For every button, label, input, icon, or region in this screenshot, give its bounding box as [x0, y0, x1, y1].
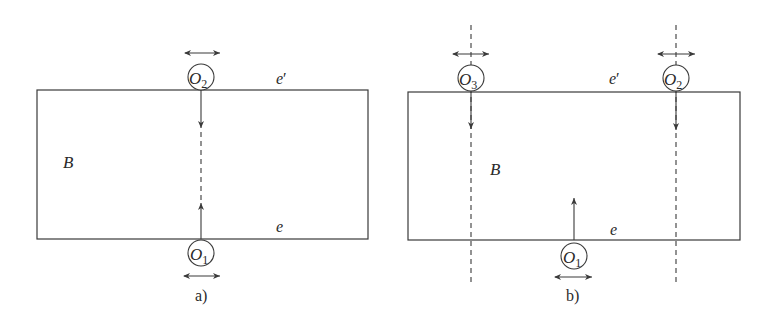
object-o1: O1: [184, 240, 220, 276]
object-o2: O2: [185, 53, 220, 91]
region-label: B: [490, 160, 501, 179]
edge-label-top: e′: [276, 70, 287, 87]
edge-label-bottom: e: [276, 218, 283, 235]
panel-b: O3 O2 O1 B e′ e b): [408, 25, 740, 305]
region-rectangle: [37, 90, 368, 239]
diagram-canvas: O2 O1 B e′ e a): [0, 0, 776, 334]
panel-a: O2 O1 B e′ e a): [37, 53, 368, 305]
object-o1: O1: [555, 198, 592, 277]
edge-label-bottom: e: [610, 221, 617, 238]
panel-caption: a): [195, 287, 207, 305]
region-label: B: [63, 153, 74, 172]
edge-label-top: e′: [609, 70, 620, 87]
panel-caption: b): [566, 287, 579, 305]
